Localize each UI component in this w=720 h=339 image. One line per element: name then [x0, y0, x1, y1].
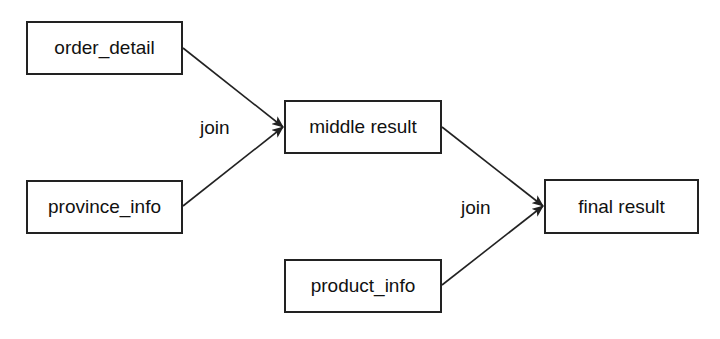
edge-order-detail-to-middle-result: [183, 48, 283, 127]
node-product-info: product_info: [284, 259, 442, 313]
edge-product-info-to-final-result: [442, 206, 543, 285]
node-middle-result: middle result: [284, 100, 442, 154]
node-province-info: province_info: [26, 180, 183, 234]
node-label: middle result: [309, 116, 417, 138]
node-order-detail: order_detail: [26, 21, 183, 75]
node-label: order_detail: [54, 37, 154, 59]
edge-province-info-to-middle-result: [183, 127, 283, 206]
edge-label-join-final: join: [461, 198, 491, 217]
edge-label-join-middle: join: [200, 118, 230, 137]
node-label: product_info: [311, 275, 416, 297]
node-label: province_info: [48, 196, 161, 218]
node-label: final result: [578, 196, 665, 218]
edge-middle-result-to-final-result: [442, 127, 543, 206]
node-final-result: final result: [544, 179, 699, 234]
